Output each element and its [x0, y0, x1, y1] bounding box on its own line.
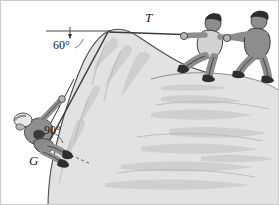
- angle-arc-60: [75, 39, 83, 48]
- puller-front-hand-lead: [180, 32, 187, 39]
- label-weight-g: G: [29, 154, 38, 167]
- label-angle-60: 60°: [53, 39, 70, 51]
- cliff-rock: [48, 29, 279, 205]
- label-tension: T: [145, 11, 152, 24]
- climber-hand: [59, 96, 66, 103]
- physics-figure: T 60° 90° G: [0, 0, 279, 205]
- puller-back-hand: [223, 34, 230, 41]
- puller-back: [223, 11, 274, 84]
- puller-back-boot-right: [261, 76, 274, 84]
- figure-canvas: [1, 1, 279, 205]
- label-angle-90: 90°: [44, 124, 61, 136]
